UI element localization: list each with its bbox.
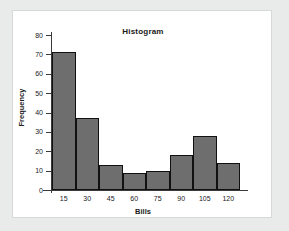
chart-panel: Histogram Frequency 01020304050607080 15… (12, 10, 272, 218)
y-tick-mark (46, 35, 51, 36)
histogram-bar (76, 118, 100, 190)
plot-area (52, 35, 240, 190)
y-tick-mark (46, 151, 51, 152)
histogram-bar (193, 136, 217, 190)
x-tick-label: 120 (213, 195, 243, 202)
histogram-bar (123, 173, 147, 190)
y-tick-label: 60 (13, 70, 43, 77)
histogram-bar (170, 155, 194, 190)
y-tick-label: 10 (13, 167, 43, 174)
histogram-bar (146, 171, 170, 190)
x-axis-title: Bills (13, 207, 273, 216)
y-tick-label: 70 (13, 51, 43, 58)
histogram-bar (217, 163, 241, 190)
histogram-bar (52, 52, 76, 190)
y-tick-mark (46, 54, 51, 55)
x-axis-line (43, 190, 248, 191)
y-tick-label: 50 (13, 90, 43, 97)
y-tick-mark (46, 93, 51, 94)
y-tick-mark (46, 190, 51, 191)
y-tick-label: 30 (13, 128, 43, 135)
y-tick-mark (46, 74, 51, 75)
y-tick-label: 0 (13, 187, 43, 194)
y-tick-mark (46, 113, 51, 114)
y-tick-label: 80 (13, 32, 43, 39)
screenshot-root: Histogram Frequency 01020304050607080 15… (0, 0, 289, 231)
histogram-bar (99, 165, 123, 190)
y-tick-label: 20 (13, 148, 43, 155)
y-tick-mark (46, 171, 51, 172)
y-tick-mark (46, 132, 51, 133)
y-tick-label: 40 (13, 109, 43, 116)
